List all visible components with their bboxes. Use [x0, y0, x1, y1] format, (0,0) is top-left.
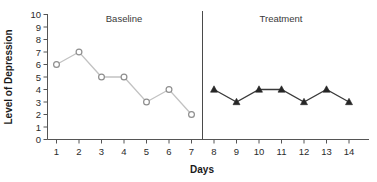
x-tick-label-11: 11: [277, 146, 287, 157]
x-tick-label-2: 2: [76, 146, 81, 157]
x-tick-label-5: 5: [144, 146, 149, 157]
x-tick-label-10: 10: [254, 146, 265, 157]
x-tick-label-9: 9: [234, 146, 239, 157]
y-tick-label-10: 10: [30, 9, 41, 20]
y-tick-label-1: 1: [36, 122, 41, 133]
chart-screenshot: 0 1 2 3 4 5 6 7 8 9 10: [0, 0, 377, 182]
x-tick-label-14: 14: [344, 146, 355, 157]
data-point: [54, 62, 60, 68]
x-tick-label-1: 1: [54, 146, 59, 157]
y-tick-label-2: 2: [36, 109, 41, 120]
data-point: [166, 87, 172, 93]
y-tick-label-0: 0: [36, 134, 41, 145]
phase-label-treatment: Treatment: [260, 13, 303, 24]
depression-line-chart: 0 1 2 3 4 5 6 7 8 9 10: [0, 0, 377, 182]
x-tick-label-6: 6: [166, 146, 171, 157]
x-tick-label-3: 3: [99, 146, 104, 157]
data-point: [144, 99, 150, 105]
y-tick-label-4: 4: [36, 84, 41, 95]
y-axis-title: Level of Depression: [3, 29, 14, 124]
y-tick-label-6: 6: [36, 59, 41, 70]
x-tick-label-8: 8: [211, 146, 216, 157]
data-point: [121, 74, 127, 80]
y-tick-label-5: 5: [36, 72, 41, 83]
y-tick-label-9: 9: [36, 22, 41, 33]
data-point: [189, 112, 195, 118]
x-tick-label-12: 12: [299, 146, 310, 157]
x-tick-label-7: 7: [189, 146, 194, 157]
y-tick-label-8: 8: [36, 34, 41, 45]
y-tick-label-3: 3: [36, 97, 41, 108]
x-tick-label-4: 4: [121, 146, 126, 157]
x-axis-title: Days: [190, 164, 214, 175]
data-point: [76, 49, 82, 55]
x-tick-label-13: 13: [321, 146, 332, 157]
phase-label-baseline: Baseline: [106, 13, 142, 24]
data-point: [99, 74, 105, 80]
y-tick-label-7: 7: [36, 47, 41, 58]
